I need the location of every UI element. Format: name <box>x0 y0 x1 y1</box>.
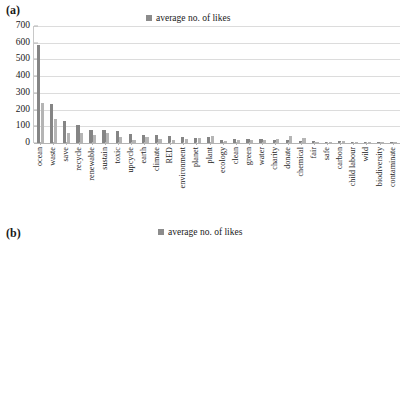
bar <box>342 141 345 143</box>
bar <box>394 142 397 143</box>
x-tick-mark <box>157 142 158 145</box>
bar-group <box>256 26 269 143</box>
bar <box>185 139 188 143</box>
legend-panel-a: average no. of likes <box>146 13 230 23</box>
x-tick-mark <box>210 142 211 145</box>
x-tick-mark <box>196 142 197 145</box>
bar <box>106 133 109 143</box>
chart-panel-a: (a) average no. of likes 010020030040050… <box>0 0 405 205</box>
bar-group <box>139 26 152 143</box>
bar <box>355 142 358 143</box>
bar-group <box>60 26 73 143</box>
bar <box>302 138 305 143</box>
bar <box>158 139 161 143</box>
bar <box>54 119 57 143</box>
bar-group <box>296 26 309 143</box>
x-axis-tick-label: green <box>245 147 253 165</box>
bar <box>41 103 44 143</box>
x-axis-tick-label: ecology <box>219 147 227 173</box>
x-axis-tick-label: recycle <box>75 147 83 171</box>
legend-label: average no. of likes <box>168 227 242 237</box>
x-tick-mark <box>380 142 381 145</box>
x-tick-mark <box>249 142 250 145</box>
bar-group <box>86 26 99 143</box>
y-axis-tick-label: 200 <box>0 105 30 115</box>
bar <box>250 140 253 143</box>
x-tick-mark <box>366 142 367 145</box>
x-tick-mark <box>288 142 289 145</box>
x-axis-tick-label: save <box>62 147 70 162</box>
plot-area-a: 0100200300400500600700 <box>33 26 400 143</box>
bar-group <box>152 26 165 143</box>
y-axis-tick-label: 500 <box>0 55 30 65</box>
y-axis-tick-label: 600 <box>0 38 30 48</box>
legend-label: average no. of likes <box>156 13 230 23</box>
bar <box>172 140 175 143</box>
bar-group <box>112 26 125 143</box>
x-axis-tick-label: toxic <box>114 147 122 163</box>
x-tick-mark <box>144 142 145 145</box>
x-tick-mark <box>118 142 119 145</box>
bar-group <box>230 26 243 143</box>
x-tick-mark <box>66 142 67 145</box>
x-axis-tick-label: safe <box>323 147 331 160</box>
x-axis-tick-label: renewable <box>88 147 96 181</box>
bar <box>198 138 201 143</box>
x-axis-tick-label: plant <box>205 147 213 163</box>
bar-group <box>191 26 204 143</box>
bar-group <box>309 26 322 143</box>
bar <box>315 142 318 143</box>
bar-group <box>335 26 348 143</box>
x-axis-tick-label: RED <box>166 147 174 163</box>
x-tick-mark <box>262 142 263 145</box>
panel-a-label: (a) <box>6 3 20 18</box>
x-axis-tick-label: donate <box>284 147 292 169</box>
x-axis-tick-label: clean <box>232 147 240 164</box>
bar <box>381 142 384 143</box>
bar <box>276 139 279 143</box>
bar <box>119 137 122 143</box>
panel-b-label: (b) <box>6 226 21 241</box>
x-tick-mark <box>223 142 224 145</box>
bar <box>80 133 83 143</box>
x-axis-tick-label: upcycle <box>127 147 135 172</box>
x-tick-mark <box>183 142 184 145</box>
x-axis-tick-label: sustain <box>101 147 109 170</box>
y-axis-tick-label: 700 <box>0 21 30 31</box>
x-axis-tick-label: climate <box>153 147 161 171</box>
x-axis-tick-label: water <box>258 147 266 165</box>
x-tick-mark <box>327 142 328 145</box>
bar <box>211 136 214 143</box>
x-axis-tick-label: planet <box>192 147 200 167</box>
x-axis-tick-label: carbon <box>336 147 344 169</box>
bar <box>263 140 266 143</box>
bar-group <box>374 26 387 143</box>
x-tick-mark <box>353 142 354 145</box>
x-tick-mark <box>275 142 276 145</box>
chart-panel-b: (b) average no. of likes 010020030040050… <box>0 205 405 403</box>
bar <box>289 136 292 143</box>
x-axis-tick-label: chemical <box>297 147 305 177</box>
bar-group <box>243 26 256 143</box>
bar-group <box>126 26 139 143</box>
x-tick-mark <box>92 142 93 145</box>
x-tick-mark <box>314 142 315 145</box>
x-tick-mark <box>40 142 41 145</box>
bar <box>237 140 240 143</box>
x-axis-tick-label: contaminate <box>389 147 397 187</box>
bar-group <box>178 26 191 143</box>
x-tick-mark <box>105 142 106 145</box>
bar-group <box>282 26 295 143</box>
bar-group <box>348 26 361 143</box>
y-axis-tick-label: 0 <box>0 138 30 148</box>
y-axis-tick-label: 100 <box>0 122 30 132</box>
bar-group <box>99 26 112 143</box>
bar <box>145 137 148 143</box>
x-tick-mark <box>236 142 237 145</box>
bar-group <box>204 26 217 143</box>
bar-series-container <box>34 26 400 143</box>
bar <box>67 133 70 143</box>
x-axis-tick-label: earth <box>140 147 148 163</box>
bar-group <box>387 26 400 143</box>
bar <box>224 141 227 143</box>
